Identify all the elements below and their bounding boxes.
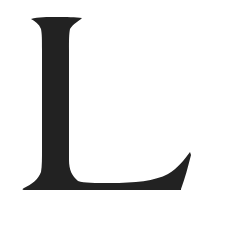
glyph-canvas: L <box>0 0 249 226</box>
letter-l-shape <box>23 17 192 190</box>
letter-l-glyph <box>0 0 249 226</box>
